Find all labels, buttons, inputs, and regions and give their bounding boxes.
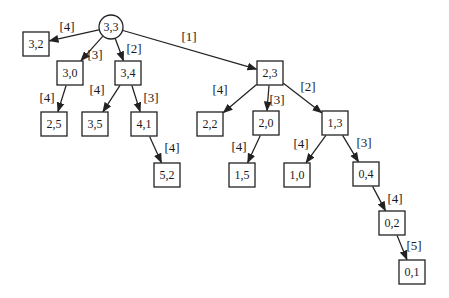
- node-label: 3,4: [121, 66, 136, 80]
- tree-node-1,5: 1,5: [229, 163, 255, 187]
- tree-node-3,2: 3,2: [23, 32, 49, 56]
- edge-weight-label-3,0-to-2,5: [4]: [39, 90, 54, 105]
- tree-node-5,2: 5,2: [154, 163, 180, 187]
- tree-node-3,0: 3,0: [57, 61, 83, 85]
- diagram-page: [4][3][2][1][4][4][3][4][4][3][2][4][4][…: [0, 0, 449, 298]
- tree-edge-1,3-to-1,0: [306, 135, 326, 162]
- node-label: 4,1: [137, 117, 152, 131]
- edge-weight-label-0,2-to-0,1: [5]: [406, 238, 421, 253]
- edge-weight-label-1,3-to-1,0: [4]: [293, 136, 308, 151]
- edge-weight-label-1,3-to-0,4: [3]: [356, 135, 371, 150]
- tree-node-1,0: 1,0: [284, 163, 310, 187]
- edge-weight-label-3,3-to-3,2: [4]: [59, 19, 74, 34]
- edge-weight-label-2,3-to-2,0: [3]: [269, 92, 284, 107]
- tree-edge-3,0-to-2,5: [58, 86, 66, 112]
- tree-diagram: [4][3][2][1][4][4][3][4][4][3][2][4][4][…: [0, 0, 449, 298]
- node-label: 2,0: [259, 116, 274, 130]
- node-label: 3,5: [88, 117, 103, 131]
- edge-weight-label-2,0-to-1,5: [4]: [231, 139, 246, 154]
- edge-weight-label-3,3-to-3,0: [3]: [87, 47, 102, 62]
- tree-node-0,2: 0,2: [379, 211, 405, 235]
- tree-edge-3,4-to-3,5: [103, 85, 120, 111]
- tree-edge-3,4-to-4,1: [132, 86, 140, 112]
- tree-edge-4,1-to-5,2: [150, 137, 162, 163]
- tree-node-3,3-root: 3,3: [99, 15, 123, 39]
- tree-node-2,0: 2,0: [253, 111, 279, 135]
- tree-edge-3,3-to-3,4: [115, 39, 123, 61]
- node-label: 2,5: [47, 117, 62, 131]
- tree-node-2,5: 2,5: [41, 112, 67, 136]
- tree-node-4,1: 4,1: [131, 112, 157, 136]
- tree-node-1,3: 1,3: [322, 111, 348, 135]
- tree-node-3,4: 3,4: [115, 61, 141, 85]
- edge-weight-label-2,3-to-2,2: [4]: [212, 82, 227, 97]
- edge-weight-label-0,4-to-0,2: [4]: [387, 191, 402, 206]
- node-label: 0,2: [385, 216, 400, 230]
- tree-edge-2,3-to-2,2: [223, 84, 256, 112]
- edge-weight-label-3,4-to-3,5: [4]: [89, 82, 104, 97]
- tree-edge-2,0-to-1,5: [248, 136, 261, 163]
- tree-node-3,5: 3,5: [82, 112, 108, 136]
- node-label: 3,0: [63, 66, 78, 80]
- tree-node-0,1: 0,1: [399, 260, 425, 284]
- node-label: 1,0: [290, 168, 305, 182]
- node-label: 1,5: [235, 168, 250, 182]
- node-label: 1,3: [328, 116, 343, 130]
- node-label: 5,2: [160, 168, 175, 182]
- node-label: 0,1: [405, 265, 420, 279]
- node-label: 2,3: [263, 66, 278, 80]
- node-label: 2,2: [203, 117, 218, 131]
- edge-weight-label-3,3-to-2,3: [1]: [181, 29, 196, 44]
- node-label: 0,4: [359, 167, 374, 181]
- tree-edge-0,4-to-0,2: [373, 186, 386, 210]
- edge-weight-label-3,4-to-4,1: [3]: [143, 90, 158, 105]
- tree-node-2,3: 2,3: [257, 61, 283, 85]
- nodes-layer: 3,33,23,03,42,32,53,54,12,22,01,35,21,51…: [23, 15, 425, 284]
- tree-node-0,4: 0,4: [353, 162, 379, 186]
- edge-weight-label-4,1-to-5,2: [4]: [164, 140, 179, 155]
- edges-layer: [50, 30, 407, 260]
- edge-weight-label-3,3-to-3,4: [2]: [126, 41, 141, 56]
- node-label: 3,2: [29, 37, 44, 51]
- edge-weight-label-2,3-to-1,3: [2]: [300, 79, 315, 94]
- tree-node-2,2: 2,2: [197, 112, 223, 136]
- node-label: 3,3: [104, 20, 119, 34]
